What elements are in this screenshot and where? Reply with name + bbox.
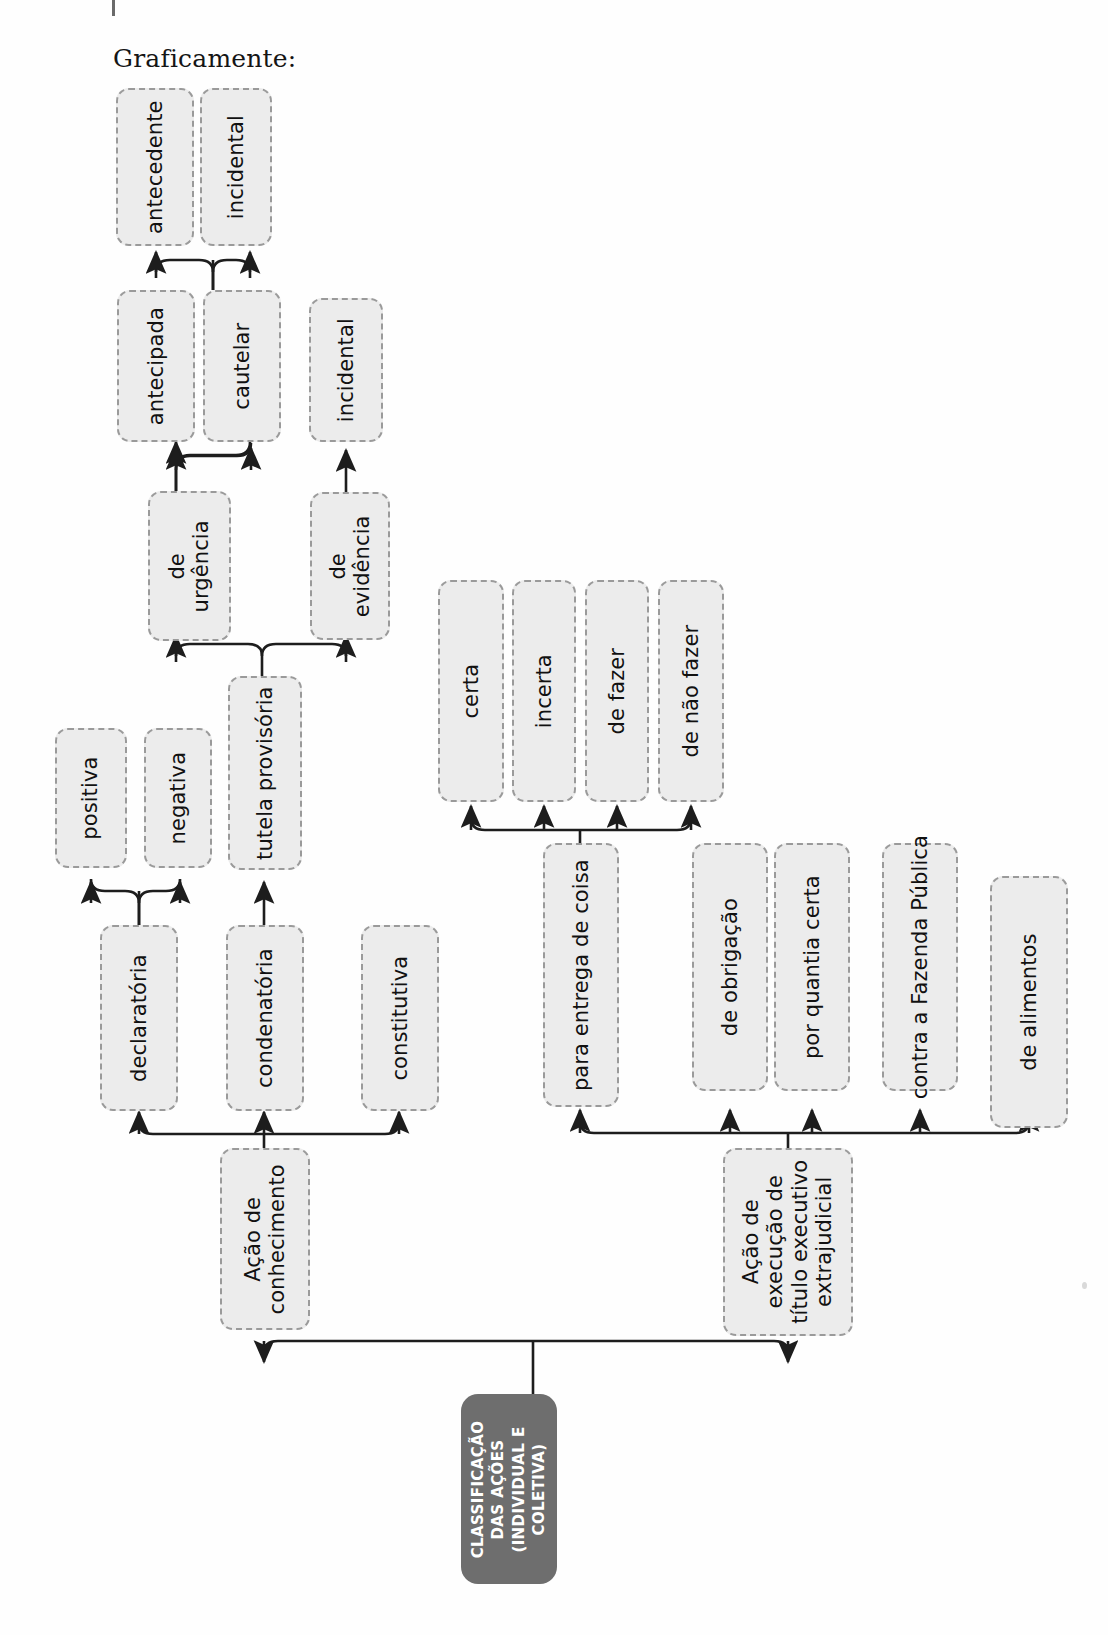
node-label: de obrigação (718, 898, 742, 1036)
node-de-alimentos[interactable]: de alimentos (990, 876, 1068, 1128)
node-label: condenatória (253, 948, 277, 1088)
node-negativa[interactable]: negativa (144, 728, 212, 868)
node-label: de fazer (605, 648, 629, 735)
node-label: de alimentos (1017, 933, 1041, 1070)
node-label: de evidência (326, 515, 375, 617)
node-label: incerta (532, 654, 556, 728)
node-antecedente[interactable]: antecedente (116, 88, 194, 246)
node-antecipada[interactable]: antecipada (117, 290, 195, 442)
node-cautelar[interactable]: cautelar (203, 290, 281, 442)
node-incidental-top[interactable]: incidental (200, 88, 272, 246)
node-condenatoria[interactable]: condenatória (226, 925, 304, 1111)
node-label: antecedente (143, 100, 167, 234)
node-label: positiva (79, 756, 103, 839)
node-incidental-evidencia[interactable]: incidental (309, 298, 383, 442)
node-tutela-provisoria[interactable]: tutela provisória (228, 676, 302, 870)
node-label: Ação de execução de título executivo ext… (739, 1160, 836, 1324)
node-label: Ação de conhecimento (241, 1164, 290, 1314)
node-incerta[interactable]: incerta (512, 580, 576, 802)
node-label: cautelar (230, 322, 254, 409)
node-de-fazer[interactable]: de fazer (585, 580, 649, 802)
node-label: incidental (224, 115, 248, 219)
node-label: tutela provisória (253, 686, 277, 860)
node-label: para entrega de coisa (569, 859, 593, 1091)
node-de-nao-fazer[interactable]: de não fazer (658, 580, 724, 802)
node-label: de não fazer (679, 625, 703, 758)
node-contra-a-fazenda-publica[interactable]: contra a Fazenda Pública (882, 843, 958, 1091)
node-positiva[interactable]: positiva (55, 728, 127, 868)
node-label: contra a Fazenda Pública (908, 835, 932, 1099)
node-label: certa (459, 664, 483, 719)
node-constitutiva[interactable]: constitutiva (361, 925, 439, 1111)
node-declaratoria[interactable]: declaratória (100, 925, 178, 1111)
node-acao-de-execucao[interactable]: Ação de execução de título executivo ext… (723, 1148, 853, 1336)
node-por-quantia-certa[interactable]: por quantia certa (774, 843, 850, 1091)
node-label: incidental (334, 318, 358, 422)
node-de-evidencia[interactable]: de evidência (310, 492, 390, 640)
node-label: por quantia certa (800, 875, 824, 1059)
node-label: de urgência (165, 520, 214, 612)
page-caption: Graficamente: (113, 44, 296, 73)
root-label: CLASSIFICAÇÃO DAS AÇÕES (INDIVIDUAL E CO… (469, 1420, 550, 1558)
node-para-entrega-de-coisa[interactable]: para entrega de coisa (543, 843, 619, 1107)
page-margin-rule (112, 0, 115, 16)
node-de-obrigacao[interactable]: de obrigação (692, 843, 768, 1091)
node-label: negativa (166, 752, 190, 845)
node-certa[interactable]: certa (438, 580, 504, 802)
node-label: antecipada (144, 307, 168, 425)
scan-speck (1082, 1282, 1087, 1289)
node-de-urgencia[interactable]: de urgência (148, 491, 231, 641)
node-acao-de-conhecimento[interactable]: Ação de conhecimento (220, 1148, 310, 1330)
node-label: declaratória (127, 954, 151, 1082)
node-root-classificacao-das-acoes[interactable]: CLASSIFICAÇÃO DAS AÇÕES (INDIVIDUAL E CO… (461, 1394, 557, 1584)
diagram-page: Graficamente: (0, 0, 1108, 1635)
node-label: constitutiva (388, 956, 412, 1081)
